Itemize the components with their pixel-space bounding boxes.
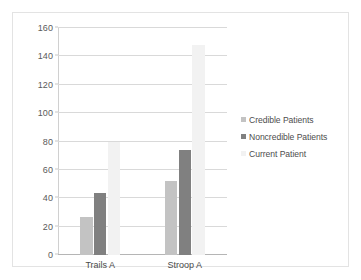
- legend-item[interactable]: Current Patient: [241, 145, 349, 162]
- plot-area: 020406080100120140160 Trails AStroop A: [58, 28, 227, 255]
- x-tick-label: Trails A: [58, 260, 143, 270]
- legend-label: Noncredible Patients: [249, 132, 327, 142]
- bar: [80, 217, 92, 255]
- y-tick-label: 120: [38, 80, 53, 90]
- y-tick-label: 40: [43, 193, 53, 203]
- y-tick-label: 100: [38, 108, 53, 118]
- bar: [165, 181, 177, 255]
- bar-group: Stroop A: [143, 28, 228, 255]
- bar: [108, 142, 120, 256]
- y-tick-label: 160: [38, 23, 53, 33]
- legend-item[interactable]: Credible Patients: [241, 111, 349, 128]
- legend-swatch-icon: [241, 117, 246, 122]
- legend-swatch-icon: [241, 151, 246, 156]
- legend-label: Credible Patients: [249, 115, 314, 125]
- y-tick-label: 60: [43, 165, 53, 175]
- legend-swatch-icon: [241, 134, 246, 139]
- chart-figure: 020406080100120140160 Trails AStroop A C…: [12, 12, 349, 267]
- y-tick-label: 140: [38, 51, 53, 61]
- bar-group: Trails A: [58, 28, 143, 255]
- bar: [94, 193, 106, 255]
- legend-label: Current Patient: [249, 149, 306, 159]
- y-tick-label: 0: [48, 250, 53, 260]
- bar: [192, 45, 204, 255]
- y-tick-label: 80: [43, 137, 53, 147]
- chart-legend: Credible PatientsNoncredible PatientsCur…: [241, 111, 349, 162]
- y-tick-label: 20: [43, 222, 53, 232]
- bar: [179, 150, 191, 255]
- legend-item[interactable]: Noncredible Patients: [241, 128, 349, 145]
- x-tick-label: Stroop A: [143, 260, 228, 270]
